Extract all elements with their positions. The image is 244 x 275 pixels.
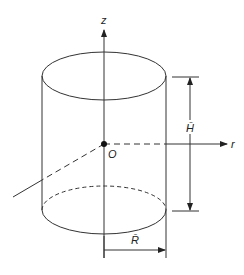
r-axis-label: r [231,138,236,150]
z-axis-label: z [100,14,107,26]
radius-label: R̄ [131,234,139,246]
oblique-axis-dashed [42,144,104,180]
origin-label: O [108,148,117,160]
height-label: H̄ [186,122,194,134]
cylinder-diagram: z r O H̄ R̄ [0,0,244,275]
oblique-axis [13,144,104,197]
origin-dot [101,141,107,147]
r-axis: r [104,138,236,150]
z-axis: z [100,14,107,258]
oblique-axis-solid [13,180,42,197]
